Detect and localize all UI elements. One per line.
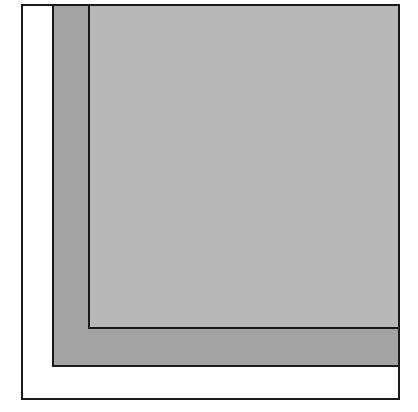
- inner-rectangle: [88, 4, 400, 329]
